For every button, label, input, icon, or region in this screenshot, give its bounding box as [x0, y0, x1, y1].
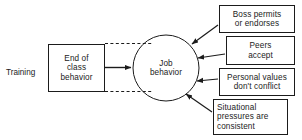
box-peers-accept [227, 37, 295, 65]
box-boss-permits-or-endorses [220, 6, 295, 33]
connector-peers-to-job-behavior [198, 54, 225, 58]
connector-boss-to-job-behavior [192, 25, 218, 44]
diagram-canvas: Training End of class behavior Job behav… [0, 0, 302, 140]
connector-pressures-to-job-behavior [186, 94, 212, 112]
connector-values-to-job-behavior [197, 79, 218, 81]
box-situational-pressures-are-consistent [214, 100, 288, 135]
box-end-of-class-behavior [49, 45, 105, 92]
label-training: Training [6, 68, 50, 77]
box-personal-values-dont-conflict [220, 69, 295, 96]
